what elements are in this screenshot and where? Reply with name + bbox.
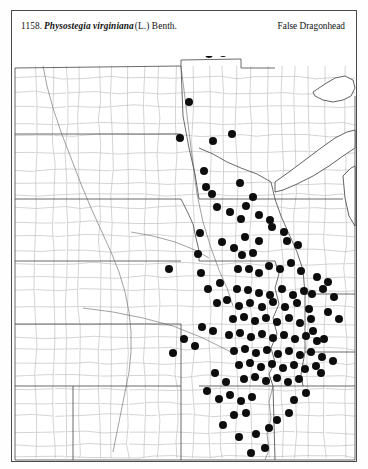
occurrence-dot (300, 287, 308, 295)
authority: (L.) Benth. (134, 21, 177, 31)
occurrence-dot (252, 430, 260, 438)
occurrence-dot (273, 318, 281, 326)
occurrence-dot (222, 378, 230, 386)
occurrence-dot (228, 130, 236, 138)
occurrence-dot (283, 237, 291, 245)
occurrence-dot (246, 299, 254, 307)
occurrence-dot (276, 265, 284, 273)
page-root: 1158.Physostegia virginiana(L.) Benth. F… (0, 0, 368, 469)
caption-row: 1158.Physostegia virginiana(L.) Benth. F… (21, 20, 347, 32)
occurrence-dot (242, 409, 250, 417)
occurrence-dot (289, 291, 297, 299)
occurrence-dot (302, 332, 310, 340)
occurrence-dot (230, 244, 238, 252)
occurrence-dot (176, 134, 184, 142)
occurrence-dot (269, 334, 277, 342)
occurrence-dot (242, 202, 250, 210)
occurrence-dot (251, 373, 259, 381)
occurrence-dot (266, 291, 274, 299)
occurrence-dot (287, 259, 295, 267)
occurrence-dot (209, 327, 217, 335)
occurrence-dot (290, 396, 298, 404)
occurrence-dot (165, 265, 173, 273)
occurrence-dot (284, 378, 292, 386)
occurrence-dot (213, 203, 221, 211)
occurrence-dot (268, 360, 276, 368)
occurrence-dot (268, 223, 276, 231)
occurrence-dot (296, 351, 304, 359)
occurrence-dot (209, 137, 217, 145)
occurrence-dot (302, 389, 310, 397)
occurrence-dot (308, 290, 316, 298)
occurrence-dot (312, 362, 320, 370)
occurrence-dot (241, 345, 249, 353)
occurrence-dot (262, 314, 270, 322)
occurrence-dot (247, 449, 255, 457)
occurrence-dot (208, 190, 216, 198)
occurrence-dot (218, 238, 226, 246)
occurrence-dot (180, 335, 188, 343)
occurrence-dot (246, 359, 254, 367)
occurrence-dot (240, 375, 248, 383)
occurrence-dot (236, 179, 244, 187)
plate-caption: 1158.Physostegia virginiana(L.) Benth. F… (12, 11, 356, 55)
occurrence-dot (280, 228, 288, 236)
occurrence-dot (280, 331, 288, 339)
occurrence-dot (255, 269, 263, 277)
occurrence-dot (329, 357, 337, 365)
occurrence-dot (215, 395, 223, 403)
occurrence-dot (309, 327, 317, 335)
occurrence-dot (235, 302, 243, 310)
occurrence-dot (245, 265, 253, 273)
occurrence-dot (230, 347, 238, 355)
occurrence-dot (273, 374, 281, 382)
occurrence-dot (307, 315, 315, 323)
occurrence-dot (205, 56, 213, 58)
occurrence-dot (294, 241, 302, 249)
occurrence-dot (320, 335, 328, 343)
occurrence-dot (265, 262, 273, 270)
occurrence-dot (296, 319, 304, 327)
occurrence-dot (261, 444, 269, 452)
occurrence-dot (202, 183, 210, 191)
occurrence-dot (185, 98, 193, 106)
common-name: False Dragonhead (278, 20, 347, 32)
occurrence-dot (198, 323, 206, 331)
map-canvas (13, 56, 357, 462)
occurrence-dot (263, 346, 271, 354)
occurrence-dot (255, 211, 263, 219)
occurrence-dot (324, 308, 332, 316)
occurrence-dot (229, 315, 237, 323)
occurrence-dot (234, 265, 242, 273)
occurrence-dot (278, 285, 286, 293)
occurrence-dot (313, 337, 321, 345)
occurrence-dot (317, 369, 325, 377)
occurrence-dot (330, 293, 338, 301)
occurrence-dot (301, 365, 309, 373)
occurrence-dot (213, 299, 221, 307)
plate-number: 1158. (21, 21, 42, 31)
distribution-map (13, 56, 357, 462)
occurrence-dot (252, 349, 260, 357)
occurrence-dot (247, 333, 255, 341)
occurrence-dot (335, 315, 343, 323)
occurrence-dot (233, 285, 241, 293)
occurrence-dot (269, 298, 277, 306)
occurrence-dot (279, 364, 287, 372)
occurrence-dot (307, 348, 315, 356)
occurrence-dot (211, 369, 219, 377)
occurrence-dot (241, 233, 249, 241)
occurrence-dot (258, 330, 266, 338)
occurrence-dot (191, 342, 199, 350)
caption-left: 1158.Physostegia virginiana(L.) Benth. (21, 20, 177, 32)
occurrence-dot (235, 433, 243, 441)
scientific-name: Physostegia virginiana (42, 21, 134, 31)
occurrence-dot (273, 416, 281, 424)
occurrence-dot (251, 317, 259, 325)
occurrence-dot (281, 303, 289, 311)
occurrence-dot (255, 289, 263, 297)
occurrence-dot (216, 279, 224, 287)
occurrence-dot (262, 377, 270, 385)
occurrence-dot (225, 331, 233, 339)
occurrence-dot (295, 375, 303, 383)
